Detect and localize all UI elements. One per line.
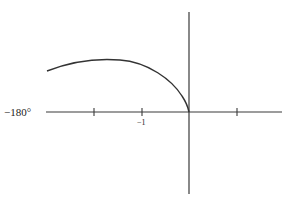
response-curve <box>47 59 189 112</box>
label-neg-1: −1 <box>137 118 146 127</box>
nyquist-plot: −180° −1 <box>0 0 294 202</box>
label-neg-180: −180° <box>4 106 31 118</box>
